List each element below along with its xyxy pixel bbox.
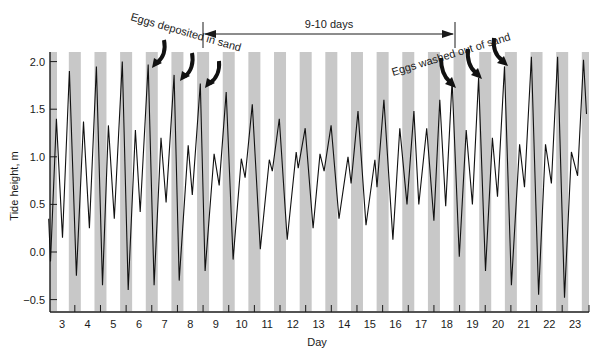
x-tick-label: 19 — [466, 318, 478, 330]
curved-arrow-icon — [185, 53, 193, 76]
y-tick-label: 1.0 — [30, 151, 45, 163]
x-tick-label: 8 — [187, 318, 193, 330]
x-tick-label: 11 — [261, 318, 272, 330]
x-tick-label: 4 — [85, 318, 91, 330]
eggs-deposited-label: Eggs deposited in sand — [129, 10, 242, 53]
night-band — [556, 52, 568, 311]
y-tick-label: 0.0 — [30, 246, 45, 258]
span-label: 9-10 days — [305, 18, 354, 30]
x-tick-label: 18 — [441, 318, 453, 330]
y-tick-label: −0.5 — [23, 294, 45, 306]
y-axis-title: Tide height, m — [8, 151, 20, 220]
span-right-arrowhead — [442, 30, 454, 38]
x-tick-label: 22 — [543, 318, 555, 330]
night-band — [479, 52, 491, 311]
x-tick-label: 17 — [415, 318, 427, 330]
x-tick-label: 12 — [287, 318, 299, 330]
night-band — [377, 52, 389, 311]
curved-arrow-icon — [157, 40, 165, 63]
night-band — [428, 52, 440, 311]
y-tick-label: 2.0 — [30, 56, 45, 68]
night-band — [351, 52, 363, 311]
tide-chart: 2.01.51.00.50.0−0.5 34567891011121314151… — [0, 0, 599, 358]
x-axis-title: Day — [307, 336, 327, 348]
x-tick-label: 10 — [235, 318, 247, 330]
x-tick-label: 7 — [162, 318, 168, 330]
night-band — [223, 52, 235, 311]
y-tick-label: 1.5 — [30, 103, 45, 115]
night-band — [94, 52, 106, 311]
x-tick-label: 3 — [59, 318, 65, 330]
x-tick-label: 6 — [136, 318, 142, 330]
x-tick-label: 14 — [338, 318, 350, 330]
curved-arrow-icon — [210, 61, 219, 83]
x-tick-label: 5 — [110, 318, 116, 330]
y-tick-label: 0.5 — [30, 198, 45, 210]
x-tick-label: 20 — [492, 318, 504, 330]
x-tick-label: 9 — [213, 318, 219, 330]
deposited-arrows — [152, 40, 219, 88]
x-ticks: 34567891011121314151617181920212223 — [59, 305, 581, 330]
night-band — [248, 52, 260, 311]
x-tick-label: 13 — [312, 318, 324, 330]
x-tick-label: 16 — [389, 318, 401, 330]
x-tick-label: 21 — [518, 318, 530, 330]
night-band — [274, 52, 286, 311]
x-tick-label: 23 — [569, 318, 581, 330]
x-tick-label: 15 — [364, 318, 376, 330]
night-band — [120, 52, 132, 311]
